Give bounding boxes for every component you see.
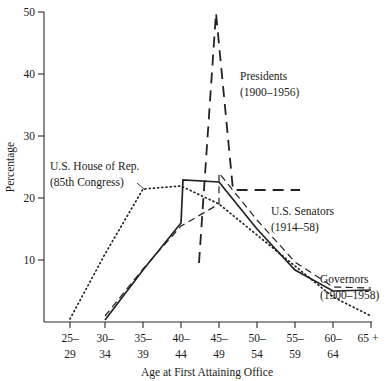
x-tick-label-top: 65 + bbox=[358, 332, 379, 344]
house-of-rep-label-line2: (85th Congress) bbox=[50, 176, 124, 189]
x-tick-label-top: 30– bbox=[96, 332, 114, 344]
chart-canvas: 50 40 30 20 10 Percentage 25– 29 30– 34 … bbox=[0, 0, 388, 381]
y-tick-label: 10 bbox=[24, 254, 36, 266]
x-tick-label-bottom: 39 bbox=[137, 348, 149, 360]
x-tick-label-bottom: 59 bbox=[289, 348, 301, 360]
x-tick-label-top: 55– bbox=[286, 332, 304, 344]
x-axis-title: Age at First Attaining Office bbox=[141, 366, 273, 379]
x-tick-label-bottom: 29 bbox=[64, 348, 76, 360]
x-tick-label-top: 45– bbox=[210, 332, 228, 344]
house-of-rep-label-line1: U.S. House of Rep. bbox=[50, 160, 140, 173]
house-of-rep-leader bbox=[137, 183, 145, 190]
x-tick-group: 25– 29 30– 34 35– 39 40– 44 45– 49 50– 5… bbox=[61, 322, 378, 360]
x-tick-label-bottom: 44 bbox=[175, 348, 187, 360]
senators-label-line2: (1914–58) bbox=[271, 221, 319, 234]
chart-figure: 50 40 30 20 10 Percentage 25– 29 30– 34 … bbox=[0, 0, 388, 381]
y-tick-label: 20 bbox=[24, 192, 36, 204]
x-tick-label-top: 25– bbox=[61, 332, 79, 344]
governors-label-line2: (1900–1958) bbox=[320, 289, 380, 302]
x-tick-label-top: 60– bbox=[324, 332, 342, 344]
x-tick-label-top: 40– bbox=[172, 332, 190, 344]
y-tick-group: 50 40 30 20 10 bbox=[24, 6, 45, 266]
x-tick-label-top: 35– bbox=[134, 332, 152, 344]
y-axis-title: Percentage bbox=[4, 142, 17, 192]
x-tick-label-bottom: 64 bbox=[327, 348, 339, 360]
y-tick-label: 30 bbox=[24, 130, 36, 142]
y-tick-label: 40 bbox=[24, 68, 36, 80]
presidents-label-line1: Presidents bbox=[240, 70, 288, 82]
x-tick-label-top: 50– bbox=[248, 332, 266, 344]
x-tick-label-bottom: 49 bbox=[213, 348, 225, 360]
x-tick-label-bottom: 34 bbox=[99, 348, 111, 360]
y-tick-label: 50 bbox=[24, 6, 36, 18]
senators-label-line1: U.S. Senators bbox=[271, 205, 334, 217]
governors-label-line1: Governors bbox=[320, 273, 369, 285]
presidents-label-line2: (1900–1956) bbox=[240, 86, 300, 99]
x-tick-label-bottom: 54 bbox=[251, 348, 263, 360]
